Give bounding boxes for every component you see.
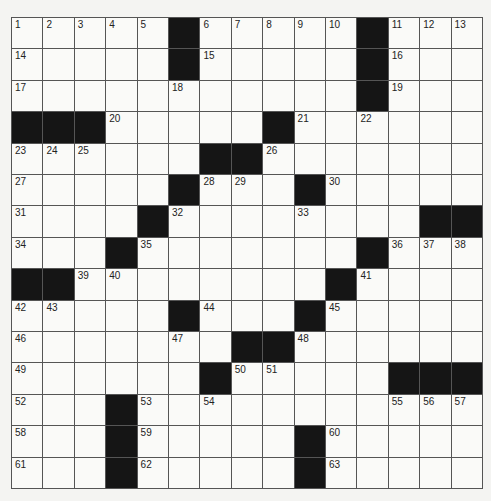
crossword-cell[interactable] bbox=[295, 49, 325, 79]
crossword-cell[interactable] bbox=[452, 269, 482, 299]
crossword-cell[interactable] bbox=[357, 426, 387, 456]
crossword-cell[interactable] bbox=[232, 301, 262, 331]
crossword-cell[interactable] bbox=[452, 332, 482, 362]
crossword-cell[interactable] bbox=[43, 81, 73, 111]
crossword-cell[interactable]: 27 bbox=[12, 175, 42, 205]
crossword-cell[interactable] bbox=[389, 458, 419, 488]
crossword-cell[interactable] bbox=[232, 395, 262, 425]
crossword-cell[interactable] bbox=[452, 175, 482, 205]
crossword-cell[interactable] bbox=[420, 175, 450, 205]
crossword-cell[interactable] bbox=[326, 395, 356, 425]
crossword-cell[interactable] bbox=[106, 206, 136, 236]
crossword-cell[interactable]: 23 bbox=[12, 144, 42, 174]
crossword-cell[interactable] bbox=[138, 81, 168, 111]
crossword-cell[interactable] bbox=[326, 81, 356, 111]
crossword-cell[interactable]: 17 bbox=[12, 81, 42, 111]
crossword-cell[interactable]: 52 bbox=[12, 395, 42, 425]
crossword-cell[interactable] bbox=[295, 395, 325, 425]
crossword-cell[interactable]: 15 bbox=[200, 49, 230, 79]
crossword-cell[interactable] bbox=[169, 269, 199, 299]
crossword-cell[interactable]: 63 bbox=[326, 458, 356, 488]
crossword-cell[interactable] bbox=[420, 301, 450, 331]
crossword-cell[interactable] bbox=[169, 112, 199, 142]
crossword-cell[interactable] bbox=[389, 426, 419, 456]
crossword-cell[interactable] bbox=[43, 206, 73, 236]
crossword-cell[interactable] bbox=[357, 332, 387, 362]
crossword-cell[interactable] bbox=[75, 458, 105, 488]
crossword-cell[interactable] bbox=[232, 458, 262, 488]
crossword-cell[interactable]: 10 bbox=[326, 18, 356, 48]
crossword-cell[interactable] bbox=[169, 144, 199, 174]
crossword-cell[interactable]: 2 bbox=[43, 18, 73, 48]
crossword-cell[interactable] bbox=[232, 269, 262, 299]
crossword-cell[interactable]: 30 bbox=[326, 175, 356, 205]
crossword-cell[interactable] bbox=[263, 206, 293, 236]
crossword-cell[interactable] bbox=[138, 301, 168, 331]
crossword-cell[interactable]: 56 bbox=[420, 395, 450, 425]
crossword-cell[interactable] bbox=[357, 144, 387, 174]
crossword-cell[interactable] bbox=[75, 363, 105, 393]
crossword-cell[interactable]: 22 bbox=[357, 112, 387, 142]
crossword-cell[interactable]: 1 bbox=[12, 18, 42, 48]
crossword-cell[interactable]: 8 bbox=[263, 18, 293, 48]
crossword-cell[interactable] bbox=[389, 269, 419, 299]
crossword-cell[interactable]: 38 bbox=[452, 238, 482, 268]
crossword-cell[interactable] bbox=[106, 49, 136, 79]
crossword-cell[interactable] bbox=[263, 458, 293, 488]
crossword-cell[interactable] bbox=[357, 206, 387, 236]
crossword-cell[interactable] bbox=[106, 332, 136, 362]
crossword-cell[interactable]: 42 bbox=[12, 301, 42, 331]
crossword-cell[interactable]: 29 bbox=[232, 175, 262, 205]
crossword-cell[interactable] bbox=[43, 458, 73, 488]
crossword-cell[interactable] bbox=[200, 269, 230, 299]
crossword-cell[interactable] bbox=[75, 81, 105, 111]
crossword-cell[interactable] bbox=[452, 426, 482, 456]
crossword-cell[interactable]: 32 bbox=[169, 206, 199, 236]
crossword-cell[interactable]: 61 bbox=[12, 458, 42, 488]
crossword-cell[interactable] bbox=[106, 144, 136, 174]
crossword-cell[interactable] bbox=[263, 301, 293, 331]
crossword-cell[interactable] bbox=[263, 395, 293, 425]
crossword-cell[interactable] bbox=[169, 426, 199, 456]
crossword-cell[interactable] bbox=[263, 269, 293, 299]
crossword-cell[interactable] bbox=[200, 206, 230, 236]
crossword-cell[interactable]: 33 bbox=[295, 206, 325, 236]
crossword-cell[interactable]: 62 bbox=[138, 458, 168, 488]
crossword-cell[interactable] bbox=[295, 144, 325, 174]
crossword-cell[interactable]: 37 bbox=[420, 238, 450, 268]
crossword-cell[interactable]: 16 bbox=[389, 49, 419, 79]
crossword-cell[interactable] bbox=[232, 49, 262, 79]
crossword-cell[interactable] bbox=[357, 395, 387, 425]
crossword-cell[interactable]: 50 bbox=[232, 363, 262, 393]
crossword-cell[interactable]: 19 bbox=[389, 81, 419, 111]
crossword-cell[interactable]: 36 bbox=[389, 238, 419, 268]
crossword-cell[interactable] bbox=[452, 49, 482, 79]
crossword-cell[interactable] bbox=[106, 363, 136, 393]
crossword-cell[interactable] bbox=[263, 49, 293, 79]
crossword-cell[interactable] bbox=[75, 206, 105, 236]
crossword-cell[interactable]: 49 bbox=[12, 363, 42, 393]
crossword-cell[interactable]: 58 bbox=[12, 426, 42, 456]
crossword-cell[interactable] bbox=[106, 81, 136, 111]
crossword-cell[interactable]: 40 bbox=[106, 269, 136, 299]
crossword-cell[interactable] bbox=[420, 49, 450, 79]
crossword-cell[interactable]: 46 bbox=[12, 332, 42, 362]
crossword-cell[interactable] bbox=[169, 458, 199, 488]
crossword-cell[interactable] bbox=[263, 81, 293, 111]
crossword-cell[interactable] bbox=[75, 238, 105, 268]
crossword-cell[interactable] bbox=[43, 363, 73, 393]
crossword-cell[interactable] bbox=[75, 426, 105, 456]
crossword-cell[interactable]: 60 bbox=[326, 426, 356, 456]
crossword-cell[interactable]: 13 bbox=[452, 18, 482, 48]
crossword-cell[interactable]: 43 bbox=[43, 301, 73, 331]
crossword-cell[interactable] bbox=[232, 112, 262, 142]
crossword-cell[interactable] bbox=[263, 426, 293, 456]
crossword-cell[interactable]: 3 bbox=[75, 18, 105, 48]
crossword-cell[interactable] bbox=[200, 112, 230, 142]
crossword-cell[interactable]: 18 bbox=[169, 81, 199, 111]
crossword-cell[interactable] bbox=[169, 238, 199, 268]
crossword-cell[interactable] bbox=[420, 458, 450, 488]
crossword-cell[interactable] bbox=[138, 175, 168, 205]
crossword-cell[interactable]: 54 bbox=[200, 395, 230, 425]
crossword-cell[interactable]: 11 bbox=[389, 18, 419, 48]
